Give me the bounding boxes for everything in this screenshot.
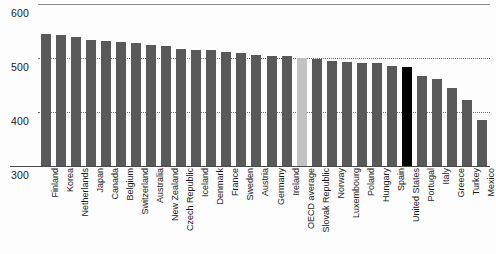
x-label-hungary: Hungary xyxy=(381,168,392,202)
bar-luxembourg xyxy=(342,62,352,166)
x-label-luxembourg: Luxembourg xyxy=(351,168,362,218)
x-label-new-zealand: New Zealand xyxy=(170,168,181,221)
x-label-netherlands: Netherlands xyxy=(80,168,91,217)
bar-switzerland xyxy=(131,43,141,166)
x-label-turkey: Turkey xyxy=(471,168,482,195)
bar-greece xyxy=(447,88,457,166)
bar-oecd-average xyxy=(297,58,307,166)
bar-poland xyxy=(357,63,367,166)
x-label-sweden: Sweden xyxy=(245,168,256,201)
bar-new-zealand xyxy=(161,46,171,166)
bar-turkey xyxy=(462,100,472,166)
x-label-canada: Canada xyxy=(110,168,121,200)
x-label-norway: Norway xyxy=(336,168,347,199)
x-axis-labels: FinlandKoreaNetherlandsJapanCanadaBelgiu… xyxy=(38,168,490,254)
x-label-united-states: United States xyxy=(411,168,422,222)
x-label-spain: Spain xyxy=(396,168,407,191)
bar-denmark xyxy=(206,50,216,166)
x-label-australia: Australia xyxy=(155,168,166,203)
bar-slovak-republic xyxy=(312,59,322,166)
bar-italy xyxy=(432,79,442,166)
bar-germany xyxy=(267,56,277,166)
x-label-france: France xyxy=(230,168,241,196)
gridline-600 xyxy=(38,4,490,5)
x-label-korea: Korea xyxy=(65,168,76,192)
bar-france xyxy=(221,52,231,166)
y-axis-label-500: 500 xyxy=(11,61,37,73)
bar-spain xyxy=(387,66,397,166)
bar-hungary xyxy=(372,63,382,166)
x-label-denmark: Denmark xyxy=(215,168,226,205)
bar-chart: 600 500 400 300 FinlandKoreaNetherlandsJ… xyxy=(0,0,496,254)
x-label-italy: Italy xyxy=(441,168,452,185)
x-label-japan: Japan xyxy=(95,168,106,193)
x-label-slovak-republic: Slovak Republic xyxy=(321,168,332,233)
bar-ireland xyxy=(282,56,292,166)
bar-japan xyxy=(86,40,96,166)
y-axis-label-300: 300 xyxy=(11,169,37,181)
bar-korea xyxy=(56,35,66,166)
x-label-czech-republic: Czech Republic xyxy=(185,168,196,231)
plot-area xyxy=(38,0,490,166)
x-label-mexico: Mexico xyxy=(486,168,496,197)
y-axis-label-400: 400 xyxy=(11,115,37,127)
bar-portugal xyxy=(417,76,427,166)
x-label-portugal: Portugal xyxy=(426,168,437,202)
bar-netherlands xyxy=(71,37,81,166)
x-label-ireland: Ireland xyxy=(291,168,302,196)
bar-australia xyxy=(146,45,156,166)
bar-austria xyxy=(251,55,261,166)
x-label-finland: Finland xyxy=(50,168,61,198)
bar-sweden xyxy=(236,53,246,166)
x-label-iceland: Iceland xyxy=(200,168,211,197)
x-label-oecd-average: OECD average xyxy=(306,168,317,229)
bar-united-states xyxy=(402,67,412,166)
bar-mexico xyxy=(477,120,487,166)
x-label-austria: Austria xyxy=(260,168,271,196)
x-label-belgium: Belgium xyxy=(125,168,136,201)
bar-czech-republic xyxy=(176,49,186,166)
x-label-switzerland: Switzerland xyxy=(140,168,151,215)
bar-belgium xyxy=(116,42,126,166)
x-label-germany: Germany xyxy=(276,168,287,205)
y-axis-label-600: 600 xyxy=(11,7,37,19)
x-label-greece: Greece xyxy=(456,168,467,198)
bar-norway xyxy=(327,61,337,166)
x-label-poland: Poland xyxy=(366,168,377,196)
bar-finland xyxy=(41,34,51,166)
bar-iceland xyxy=(191,50,201,166)
bar-canada xyxy=(101,41,111,166)
